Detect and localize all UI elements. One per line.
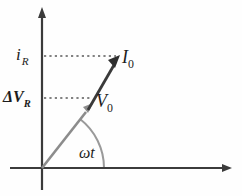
- horizontal-axis-arrowhead-icon: [222, 164, 232, 172]
- voltage-amplitude-label: ΔVR: [3, 89, 31, 105]
- voltage-amplitude-base: ΔV: [3, 88, 24, 105]
- current-amplitude-label: iR: [16, 46, 28, 63]
- voltage-phasor-base: V: [96, 91, 107, 111]
- current-phasor-arrowhead-icon: [108, 55, 120, 68]
- current-phasor-subscript: 0: [128, 57, 134, 71]
- voltage-phasor-subscript: 0: [107, 101, 113, 115]
- phasor-diagram-figure: iR ΔVR I0 V0 ωt: [0, 0, 242, 196]
- current-amplitude-subscript: R: [22, 55, 29, 67]
- voltage-amplitude-subscript: R: [24, 98, 31, 109]
- phasor-diagram-canvas: [0, 0, 242, 196]
- vertical-axis-arrowhead-icon: [38, 7, 46, 18]
- voltage-phasor-label: V0: [96, 92, 113, 110]
- current-amplitude-base: i: [16, 45, 21, 64]
- omega-t-label: ωt: [79, 145, 95, 161]
- current-phasor-label: I0: [122, 48, 134, 66]
